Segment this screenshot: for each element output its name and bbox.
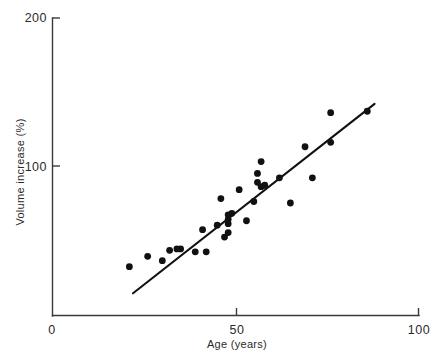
- data-point: [302, 143, 309, 150]
- data-point: [126, 263, 133, 270]
- y-tick-label-100: 100: [25, 160, 47, 174]
- data-point: [250, 198, 257, 205]
- data-point: [192, 248, 199, 255]
- y-axis-title: Volume increase (%): [14, 118, 26, 225]
- data-point: [258, 158, 265, 165]
- data-point: [166, 247, 173, 254]
- x-axis-group: 0 50 100 Age (years): [48, 308, 430, 350]
- data-point: [364, 108, 371, 115]
- data-point: [177, 245, 184, 252]
- scatter-plot-figure: 200 100 Volume increase (%) 0 50 100 Age…: [0, 0, 440, 357]
- plot-canvas: 200 100 Volume increase (%) 0 50 100 Age…: [0, 0, 440, 357]
- x-tick-label-100: 100: [408, 323, 430, 337]
- data-point: [287, 200, 294, 207]
- y-tick-label-200: 200: [25, 11, 47, 25]
- data-point: [217, 195, 224, 202]
- data-point: [228, 210, 235, 217]
- data-point: [144, 253, 151, 260]
- y-axis-group: 200 100 Volume increase (%): [14, 11, 60, 316]
- data-point: [309, 174, 316, 181]
- data-point: [243, 217, 250, 224]
- data-point: [225, 229, 232, 236]
- data-point: [327, 109, 334, 116]
- data-point: [276, 174, 283, 181]
- data-point: [236, 186, 243, 193]
- x-tick-label-50: 50: [230, 323, 245, 337]
- x-axis-title: Age (years): [207, 338, 267, 350]
- data-point: [261, 182, 268, 189]
- data-points-layer: [126, 108, 371, 270]
- data-point: [327, 139, 334, 146]
- data-point: [214, 222, 221, 229]
- data-point: [254, 170, 261, 177]
- x-tick-label-0: 0: [48, 323, 55, 337]
- data-point: [159, 257, 166, 264]
- data-point: [203, 248, 210, 255]
- data-point: [199, 226, 206, 233]
